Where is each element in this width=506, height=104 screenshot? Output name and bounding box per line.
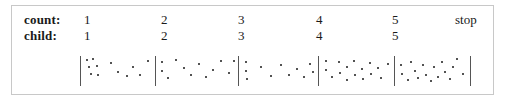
count-value-4: 4 — [316, 12, 323, 28]
figure-container: count: 1 2 3 4 5 stop child: 1 2 3 4 5 — [0, 0, 506, 104]
child-value-1: 1 — [84, 28, 91, 44]
count-value-5: 5 — [392, 12, 399, 28]
child-value-2: 2 — [161, 28, 168, 44]
caption-row-count: count: 1 2 3 4 5 stop — [0, 12, 506, 28]
stop-label: stop — [455, 12, 477, 28]
count-value-1: 1 — [84, 12, 91, 28]
child-value-4: 4 — [316, 28, 323, 44]
child-value-3: 3 — [238, 28, 245, 44]
row-label-count: count: — [24, 12, 61, 28]
caption-row-child: child: 1 2 3 4 5 — [0, 28, 506, 44]
count-value-2: 2 — [161, 12, 168, 28]
count-value-3: 3 — [238, 12, 245, 28]
row-label-child: child: — [24, 28, 57, 44]
child-value-5: 5 — [392, 28, 399, 44]
